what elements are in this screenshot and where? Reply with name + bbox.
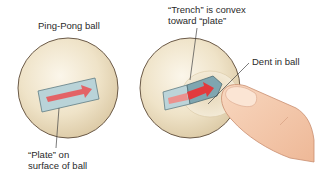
plate-label-line1: “Plate” on [28, 149, 87, 160]
trench-label: “Trench” is convex toward “plate” [168, 4, 246, 26]
trench-label-line2: toward “plate” [168, 15, 246, 26]
dent-label: Dent in ball [252, 56, 300, 67]
plate-label-line2: surface of ball [28, 160, 87, 171]
ping-pong-ball-title: Ping-Pong ball [38, 20, 100, 31]
trench-label-line1: “Trench” is convex [168, 4, 246, 15]
ping-pong-ball-right [140, 28, 249, 138]
ping-pong-ball-left [18, 38, 118, 148]
finger-icon [221, 85, 314, 162]
plate-label: “Plate” on surface of ball [28, 149, 87, 171]
